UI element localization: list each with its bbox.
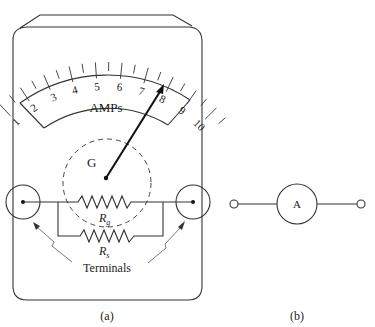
symbol-left-terminal	[230, 200, 238, 208]
scale-tick-label: 7	[137, 84, 146, 97]
terminals-label: Terminals	[83, 261, 131, 275]
resistor-rs-label: Rs	[98, 244, 109, 260]
resistor-rs	[58, 202, 163, 242]
amp-scale: 12345678910 AMPs	[0, 62, 226, 133]
ammeter-diagram: 12345678910 AMPs G Rg Rs Terminals (a)	[0, 0, 375, 327]
scale-tick-label: 3	[48, 90, 58, 103]
scale-unit-label: AMPs	[89, 100, 122, 115]
galvanometer-label: G	[87, 155, 96, 170]
ammeter-symbol: A	[230, 184, 365, 224]
scale-tick-label: 4	[71, 83, 80, 96]
galvanometer-dashed-circle	[63, 139, 151, 227]
caption-a: (a)	[100, 309, 113, 323]
ammeter-symbol-label: A	[293, 198, 301, 210]
scale-tick-label: 9	[177, 104, 189, 117]
needle-arrowhead-icon	[156, 84, 164, 94]
right-terminal-arrow	[148, 226, 182, 263]
scale-tick-label: 1	[10, 115, 22, 128]
scale-tick-label: 5	[94, 80, 101, 92]
caption-b: (b)	[290, 309, 304, 323]
shunt-circuit: Rg Rs Terminals	[6, 185, 210, 275]
resistor-rg	[23, 196, 193, 208]
symbol-right-terminal	[357, 200, 365, 208]
needle-pivot	[104, 176, 108, 180]
scale-tick-label: 6	[116, 80, 123, 93]
resistor-rg-label: Rg	[98, 211, 110, 227]
left-terminal-arrow	[36, 226, 72, 262]
